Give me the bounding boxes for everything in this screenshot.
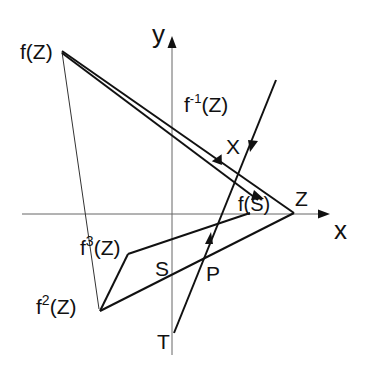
x-axis-label: x [334,215,347,245]
line-f2Z-f3Z [100,254,128,311]
arrow-up-icon [205,232,213,244]
label-fZ: f(Z) [20,40,53,63]
diagram-canvas: y x f(Z) f-1(Z) X f(S) Z f3(Z) S P f2(Z)… [0,0,368,370]
label-T: T [157,330,170,353]
label-X: X [226,135,240,158]
arrow-down-icon [248,140,258,152]
y-axis-arrow-icon [168,36,177,48]
label-S: S [155,257,169,280]
label-finvZ: f-1(Z) [184,91,228,116]
x-axis-arrow-icon [318,210,330,219]
label-P: P [206,262,220,285]
label-fS: f(S) [238,193,270,215]
label-Z: Z [295,187,308,210]
y-axis [168,36,177,355]
diagram-svg: y x f(Z) f-1(Z) X f(S) Z f3(Z) S P f2(Z)… [0,0,368,370]
line-fZ-fS [62,53,258,200]
line-f3Z-fS [128,213,250,254]
line-fZ-Z [62,51,294,213]
line-fZ-f2Z [62,52,99,309]
y-axis-label: y [152,19,165,49]
label-f3Z: f3(Z) [80,233,120,259]
line-Z-f2Z [100,213,294,311]
label-f2Z: f2(Z) [36,292,76,318]
